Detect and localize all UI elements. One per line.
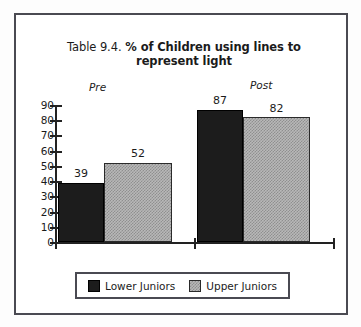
bar-value-pre-upper-juniors: 52 [104, 147, 172, 160]
y-axis-label-10: 10 [30, 222, 54, 232]
bar-value-pre-lower-juniors: 39 [58, 167, 104, 180]
y-axis-label-40: 40 [30, 176, 54, 186]
x-axis-tick-end [333, 238, 335, 249]
page-background: Table 9.4. % of Children using lines to … [0, 0, 361, 327]
legend-swatch-icon-upper-juniors [189, 280, 201, 292]
legend-swatch-icon-lower-juniors [88, 280, 100, 292]
bar-pre-lower-juniors [58, 183, 104, 242]
legend-item-upper-juniors: Upper Juniors [189, 280, 277, 292]
y-axis-label-20: 20 [30, 207, 54, 217]
bar-post-lower-juniors [197, 110, 243, 242]
y-axis-label-0: 0 [30, 237, 54, 247]
y-axis-label-50: 50 [30, 161, 54, 171]
y-axis-label-80: 80 [30, 115, 54, 125]
chart-frame: Table 9.4. % of Children using lines to … [14, 13, 348, 315]
x-axis-tick-start [55, 238, 57, 249]
y-axis-label-90: 90 [30, 100, 54, 110]
legend-label-lower-juniors: Lower Juniors [105, 280, 175, 292]
bar-value-post-lower-juniors: 87 [197, 94, 243, 107]
chart-legend: Lower Juniors Upper Juniors [75, 272, 290, 299]
legend-item-lower-juniors: Lower Juniors [88, 280, 175, 292]
legend-label-upper-juniors: Upper Juniors [206, 280, 277, 292]
bar-pre-upper-juniors [104, 163, 172, 242]
x-axis-tick-middle [194, 238, 196, 249]
y-axis-label-70: 70 [30, 130, 54, 140]
y-axis-line [55, 105, 57, 242]
bar-value-post-upper-juniors: 82 [243, 102, 310, 115]
bar-post-upper-juniors [243, 117, 310, 242]
y-axis-label-60: 60 [30, 146, 54, 156]
y-axis-label-30: 30 [30, 191, 54, 201]
